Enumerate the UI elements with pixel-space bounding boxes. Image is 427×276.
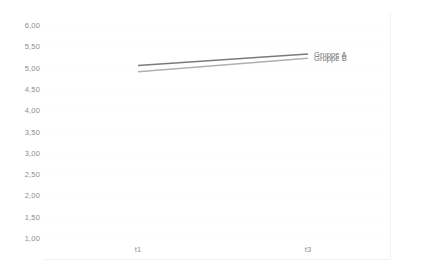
legend-label-gruppe-b: Gruppe B (314, 54, 347, 63)
series-lines (0, 0, 427, 276)
line-chart: 6,005,505,004,504,003,503,002,502,001,50… (0, 0, 427, 276)
